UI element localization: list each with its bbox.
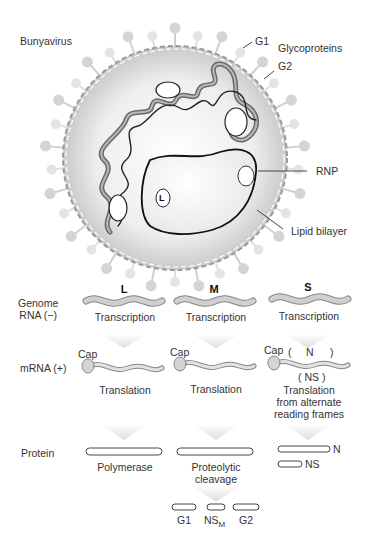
genome-rnas [86, 297, 348, 304]
segment-l-transcription: Transcription [84, 311, 166, 323]
segment-l-name: L [114, 283, 134, 295]
virus-particle [40, 23, 311, 293]
segment-m-transcription: Transcription [175, 311, 257, 323]
lipid-bilayer-label: Lipid bilayer [291, 225, 347, 237]
segment-s-frame-n-open: ( [288, 346, 292, 358]
segment-s-name: S [298, 281, 318, 293]
polymerase-marker-label: L [159, 192, 165, 204]
product-g2: G2 [239, 514, 253, 526]
g1-label: G1 [255, 35, 269, 47]
segment-s-frame-ns: ( NS ) [298, 371, 325, 383]
segment-m-name: M [204, 283, 224, 295]
product-g1: G1 [177, 514, 191, 526]
rnp-label: RNP [316, 165, 338, 177]
segment-m-cleavage: Proteolytic cleavage [175, 461, 257, 485]
segment-s-transcription: Transcription [268, 310, 350, 322]
product-nsm-subscript: M [219, 520, 226, 529]
segment-s-frame-n: N [306, 346, 314, 358]
glycoproteins-label: Glycoproteins [278, 42, 342, 54]
segment-s-frame-n-close: ) [330, 346, 334, 358]
product-nsm-base: NS [204, 514, 219, 526]
product-nsm: NSM [204, 514, 225, 531]
segment-l-translation: Translation [84, 384, 166, 396]
row-label-mrna: mRNA (+) [20, 362, 66, 374]
row-label-protein: Protein [21, 447, 54, 459]
virus-title: Bunyavirus [20, 35, 72, 47]
g2-label: G2 [278, 60, 292, 72]
protein-ns: NS [305, 458, 320, 470]
segment-m-cap: Cap [170, 346, 189, 358]
segment-s-cap: Cap [264, 344, 283, 356]
segment-l-cap: Cap [78, 348, 97, 360]
protein-n: N [333, 443, 341, 455]
row-label-genome: Genome RNA (−) [18, 297, 58, 321]
segment-s-translation: Translation from alternate reading frame… [262, 384, 356, 420]
rnp-small-loop [238, 166, 254, 186]
segment-l-protein: Polymerase [84, 461, 166, 473]
segment-m-translation: Translation [175, 383, 257, 395]
